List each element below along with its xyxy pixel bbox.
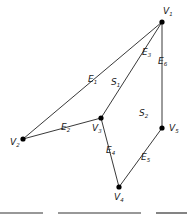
vertex-dot-v2: [20, 136, 25, 141]
vertice-label-v4: V4: [114, 192, 124, 203]
edge-label-e3: E3: [142, 47, 152, 58]
vertice-label-v1: V1: [163, 6, 173, 17]
vertice-label-v5: V5: [169, 123, 179, 134]
vertex-dot-v5: [159, 125, 164, 130]
edge-label-e1: E1: [88, 74, 97, 85]
edge-label-e2: E2: [61, 122, 71, 133]
vertice-label-v3: V3: [92, 123, 102, 134]
edge-label-e4: E4: [106, 145, 116, 156]
edge-e3: [101, 22, 162, 118]
vertex-dot-v3: [98, 115, 103, 120]
vertices-group: [20, 19, 164, 189]
vertex-dot-v4: [116, 184, 121, 189]
face-label-s1: S1: [111, 77, 120, 88]
edge-label-e6: E6: [158, 56, 168, 67]
edge-label-e5: E5: [141, 152, 151, 163]
vertex-dot-v1: [159, 19, 164, 24]
face-label-s2: S2: [139, 108, 149, 119]
vertice-label-v2: V2: [10, 137, 20, 148]
planar-graph-diagram: V1V2V3V4V5E1E2E3E4E5E6S1S2: [0, 0, 187, 217]
